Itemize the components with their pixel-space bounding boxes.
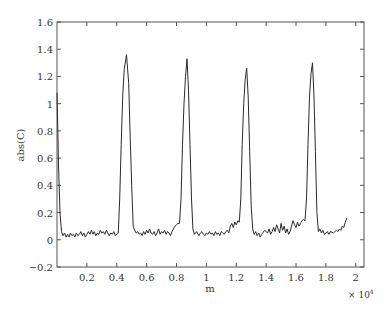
y-tick-label: 1.2 — [37, 71, 53, 82]
x-tick-label: 1.4 — [258, 272, 274, 283]
multiplier-exponent: 4 — [370, 288, 374, 295]
y-tick-label: 1.4 — [37, 44, 53, 55]
y-tick-label: 0.2 — [37, 208, 53, 219]
x-tick-label: 0.8 — [169, 272, 185, 283]
x-tick-label: 0.4 — [109, 272, 125, 283]
y-tick-label: 0.4 — [37, 180, 53, 191]
y-axis-label: abs(C) — [15, 128, 26, 161]
x-tick-label: 1.2 — [228, 272, 244, 283]
y-tick-label: 0.6 — [37, 153, 53, 164]
y-tick-label: 1.6 — [37, 17, 53, 28]
y-tick-label: 0.8 — [37, 126, 53, 137]
x-tick-label: 1.6 — [288, 272, 304, 283]
line-chart: 0.20.40.60.811.21.41.61.82 −0.200.20.40.… — [0, 0, 386, 311]
y-tick-label: 0 — [47, 235, 53, 246]
multiplier-base: × 10 — [348, 290, 370, 300]
x-tick-label: 2 — [353, 272, 359, 283]
y-tick-label: −0.2 — [29, 262, 53, 273]
x-tick-label: 1.8 — [318, 272, 334, 283]
x-axis-label: m — [205, 283, 215, 294]
x-tick-label: 0.6 — [139, 272, 155, 283]
x-tick-label: 1 — [203, 272, 209, 283]
x-tick-label: 0.2 — [79, 272, 95, 283]
y-tick-label: 1 — [47, 99, 53, 110]
